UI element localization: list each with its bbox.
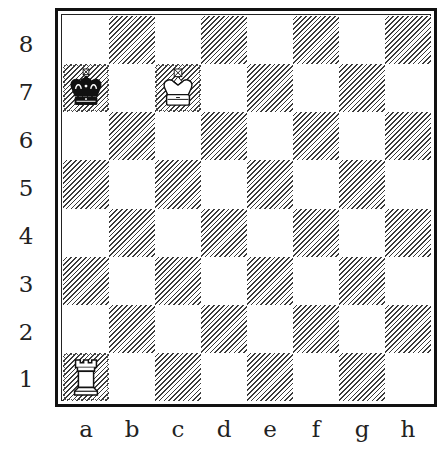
square-e6[interactable] xyxy=(247,112,293,160)
white-rook-icon[interactable] xyxy=(63,353,109,401)
square-c2[interactable] xyxy=(155,305,201,353)
white-king-icon[interactable] xyxy=(155,64,201,112)
square-c6[interactable] xyxy=(155,112,201,160)
square-a2[interactable] xyxy=(63,305,109,353)
file-label-g: g xyxy=(339,418,385,441)
square-d6[interactable] xyxy=(201,112,247,160)
square-d1[interactable] xyxy=(201,353,247,401)
square-c3[interactable] xyxy=(155,257,201,305)
square-e5[interactable] xyxy=(247,160,293,208)
square-h4[interactable] xyxy=(385,209,431,257)
square-f2[interactable] xyxy=(293,305,339,353)
square-b3[interactable] xyxy=(109,257,155,305)
square-d4[interactable] xyxy=(201,209,247,257)
file-label-h: h xyxy=(385,418,431,441)
square-e4[interactable] xyxy=(247,209,293,257)
square-g3[interactable] xyxy=(339,257,385,305)
square-a8[interactable] xyxy=(63,16,109,64)
square-d8[interactable] xyxy=(201,16,247,64)
rank-label-8: 8 xyxy=(14,33,38,56)
square-a3[interactable] xyxy=(63,257,109,305)
square-f8[interactable] xyxy=(293,16,339,64)
rank-label-7: 7 xyxy=(14,81,38,104)
square-c7[interactable] xyxy=(155,64,201,112)
square-c8[interactable] xyxy=(155,16,201,64)
square-f4[interactable] xyxy=(293,209,339,257)
square-a5[interactable] xyxy=(63,160,109,208)
square-e8[interactable] xyxy=(247,16,293,64)
rank-label-2: 2 xyxy=(14,321,38,344)
rank-label-4: 4 xyxy=(14,225,38,248)
square-e3[interactable] xyxy=(247,257,293,305)
square-b5[interactable] xyxy=(109,160,155,208)
rank-label-6: 6 xyxy=(14,129,38,152)
square-h2[interactable] xyxy=(385,305,431,353)
square-g4[interactable] xyxy=(339,209,385,257)
square-f6[interactable] xyxy=(293,112,339,160)
square-a1[interactable] xyxy=(63,353,109,401)
square-g6[interactable] xyxy=(339,112,385,160)
square-b1[interactable] xyxy=(109,353,155,401)
square-d5[interactable] xyxy=(201,160,247,208)
square-f1[interactable] xyxy=(293,353,339,401)
square-e2[interactable] xyxy=(247,305,293,353)
square-a6[interactable] xyxy=(63,112,109,160)
square-f5[interactable] xyxy=(293,160,339,208)
file-label-e: e xyxy=(247,418,293,441)
chess-board xyxy=(63,16,431,401)
square-h3[interactable] xyxy=(385,257,431,305)
square-e1[interactable] xyxy=(247,353,293,401)
square-b7[interactable] xyxy=(109,64,155,112)
file-label-d: d xyxy=(201,418,247,441)
square-a4[interactable] xyxy=(63,209,109,257)
square-b2[interactable] xyxy=(109,305,155,353)
square-h5[interactable] xyxy=(385,160,431,208)
square-a7[interactable] xyxy=(63,64,109,112)
file-label-b: b xyxy=(109,418,155,441)
square-c5[interactable] xyxy=(155,160,201,208)
square-f3[interactable] xyxy=(293,257,339,305)
square-f7[interactable] xyxy=(293,64,339,112)
square-b8[interactable] xyxy=(109,16,155,64)
square-g1[interactable] xyxy=(339,353,385,401)
square-h1[interactable] xyxy=(385,353,431,401)
square-d3[interactable] xyxy=(201,257,247,305)
square-g2[interactable] xyxy=(339,305,385,353)
square-d2[interactable] xyxy=(201,305,247,353)
rank-label-5: 5 xyxy=(14,177,38,200)
rank-label-1: 1 xyxy=(14,368,38,391)
black-king-icon[interactable] xyxy=(63,64,109,112)
square-h8[interactable] xyxy=(385,16,431,64)
square-e7[interactable] xyxy=(247,64,293,112)
square-d7[interactable] xyxy=(201,64,247,112)
square-b6[interactable] xyxy=(109,112,155,160)
file-label-c: c xyxy=(155,418,201,441)
square-g8[interactable] xyxy=(339,16,385,64)
square-c1[interactable] xyxy=(155,353,201,401)
rank-label-3: 3 xyxy=(14,273,38,296)
file-label-f: f xyxy=(293,418,339,441)
square-g7[interactable] xyxy=(339,64,385,112)
square-h7[interactable] xyxy=(385,64,431,112)
square-h6[interactable] xyxy=(385,112,431,160)
square-c4[interactable] xyxy=(155,209,201,257)
square-g5[interactable] xyxy=(339,160,385,208)
square-b4[interactable] xyxy=(109,209,155,257)
file-label-a: a xyxy=(63,418,109,441)
